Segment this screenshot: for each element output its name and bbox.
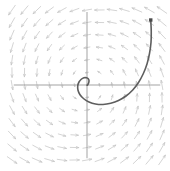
phase-portrait-plot [0, 0, 170, 171]
trajectory-start-marker [149, 18, 152, 21]
direction-field-figure [0, 0, 170, 171]
plot-background [0, 0, 170, 171]
